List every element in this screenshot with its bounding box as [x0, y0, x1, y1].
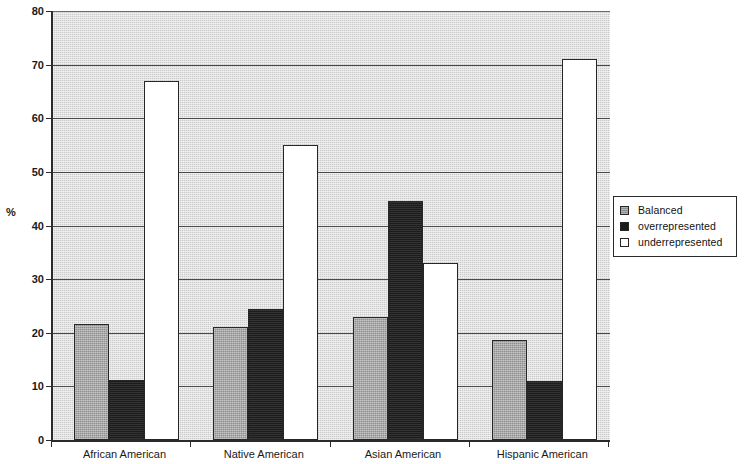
bar — [144, 81, 179, 440]
legend-item: Balanced — [620, 202, 730, 218]
x-tick-label: African American — [83, 448, 166, 460]
bar-group — [53, 11, 192, 440]
x-tick-mark — [51, 441, 52, 447]
bar-group — [471, 11, 610, 440]
y-tick-label: 50 — [22, 166, 44, 178]
y-tick-label: 40 — [22, 220, 44, 232]
y-axis-title: % — [6, 206, 16, 218]
underrepresented-swatch — [620, 238, 629, 247]
bar — [283, 145, 318, 440]
bar — [213, 327, 248, 440]
y-tick-label: 80 — [22, 5, 44, 17]
bar — [109, 380, 144, 440]
balanced-swatch — [620, 206, 629, 215]
legend-label: underrepresented — [638, 236, 723, 248]
x-tick-label: Asian American — [365, 448, 441, 460]
legend-item: overrepresented — [620, 218, 730, 234]
bar — [74, 324, 109, 440]
x-tick-mark — [608, 441, 609, 447]
legend-label: overrepresented — [638, 220, 716, 232]
x-tick-mark — [190, 441, 191, 447]
legend-label: Balanced — [638, 204, 683, 216]
bar-group — [192, 11, 331, 440]
bar — [492, 340, 527, 440]
bar — [353, 317, 388, 440]
bar — [423, 263, 458, 440]
chart-legend: Balancedoverrepresentedunderrepresented — [613, 196, 737, 257]
y-tick-label: 0 — [22, 434, 44, 446]
bar — [562, 59, 597, 440]
bar — [388, 201, 423, 440]
y-tick-label: 20 — [22, 327, 44, 339]
plot-area — [51, 11, 610, 442]
x-tick-mark — [469, 441, 470, 447]
y-tick-label: 30 — [22, 273, 44, 285]
x-tick-mark — [330, 441, 331, 447]
bar-chart: % 01020304050607080 African AmericanNati… — [0, 0, 745, 464]
bar — [248, 309, 283, 440]
x-tick-label: Native American — [224, 448, 304, 460]
bar-group — [332, 11, 471, 440]
overrepresented-swatch — [620, 222, 629, 231]
y-tick-label: 60 — [22, 112, 44, 124]
y-tick-label: 10 — [22, 380, 44, 392]
x-tick-label: Hispanic American — [497, 448, 588, 460]
y-axis-tick-labels: 01020304050607080 — [16, 0, 44, 464]
bar — [527, 381, 562, 440]
y-tick-label: 70 — [22, 59, 44, 71]
legend-item: underrepresented — [620, 234, 730, 250]
